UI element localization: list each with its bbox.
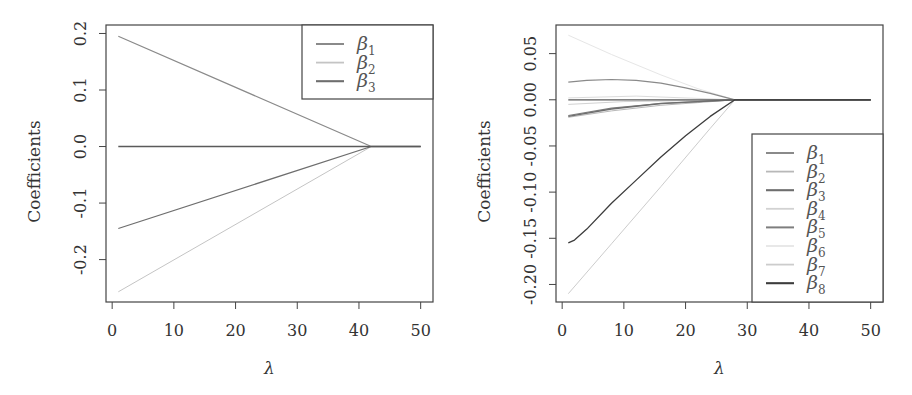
x-tick-label: 30	[287, 321, 307, 340]
x-tick-label: 40	[799, 321, 819, 340]
x-tick-label: 50	[860, 321, 880, 340]
coefficient-path-figure: 01020304050-0.2-0.10.00.10.2λCoefficient…	[0, 0, 912, 395]
y-tick-label: -0.10	[521, 172, 540, 213]
legend-subscript: 1	[818, 153, 826, 167]
legend: β1β2β3β4β5β6β7β8	[752, 134, 883, 302]
x-tick-label: 20	[225, 321, 245, 340]
legend-subscript: 2	[818, 172, 826, 186]
x-tick-label: 0	[107, 321, 117, 340]
y-tick-label: 0.0	[71, 134, 90, 159]
legend-subscript: 8	[818, 283, 826, 297]
x-tick-label: 20	[675, 321, 695, 340]
left-coefficient-plot: 01020304050-0.2-0.10.00.10.2λCoefficient…	[24, 21, 433, 378]
legend-subscript: 4	[818, 209, 826, 223]
series-line-β3	[118, 147, 420, 229]
legend-subscript: 3	[368, 81, 376, 95]
legend-subscript: 1	[368, 44, 376, 58]
y-axis-title: Coefficients	[24, 120, 44, 222]
y-tick-label: 0.2	[71, 21, 90, 46]
y-axis-title: Coefficients	[474, 120, 494, 222]
y-tick-label: -0.1	[71, 188, 90, 219]
y-tick-label: -0.2	[71, 244, 90, 275]
series-line-β6	[568, 35, 870, 100]
y-tick-label: 0.00	[521, 82, 540, 118]
legend-subscript: 7	[818, 265, 826, 279]
legend-subscript: 3	[818, 190, 826, 204]
series-line-β2	[118, 147, 420, 292]
legend: β1β2β3	[302, 25, 433, 99]
legend-symbol: β	[356, 69, 368, 91]
x-tick-label: 50	[410, 321, 430, 340]
x-tick-label: 30	[737, 321, 757, 340]
x-tick-label: 0	[557, 321, 567, 340]
y-tick-label: 0.1	[71, 77, 90, 102]
x-tick-label: 10	[164, 321, 184, 340]
y-tick-label: -0.20	[521, 264, 540, 305]
legend-subscript: 2	[368, 63, 376, 77]
y-tick-label: 0.05	[521, 36, 540, 72]
x-axis-title: λ	[713, 358, 725, 378]
right-coefficient-plot: 01020304050-0.20-0.15-0.10-0.050.000.05λ…	[474, 25, 883, 378]
y-tick-label: -0.15	[521, 218, 540, 259]
x-axis-title: λ	[263, 358, 275, 378]
x-tick-label: 10	[614, 321, 634, 340]
legend-subscript: 5	[818, 227, 826, 241]
x-tick-label: 40	[349, 321, 369, 340]
y-tick-label: -0.05	[521, 125, 540, 166]
legend-subscript: 6	[818, 246, 826, 260]
legend-symbol: β	[806, 271, 818, 293]
